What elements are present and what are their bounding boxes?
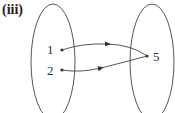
codomain-element-5: 5 [153,49,160,64]
arrow-1-to-5 [62,44,108,50]
arrow-2-to-5 [62,68,101,71]
mapping-diagram: 1 2 5 [0,0,175,113]
domain-set-ellipse [31,4,75,113]
domain-element-2: 2 [47,63,54,78]
arrow-2-to-5-tail [101,56,147,68]
arrow-1-to-5-tail [108,44,147,56]
domain-element-1: 1 [47,42,54,57]
